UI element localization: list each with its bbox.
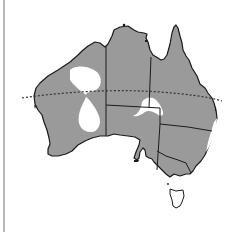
island-king bbox=[167, 183, 169, 185]
australia-map bbox=[0, 0, 239, 232]
island-groote-eylandt bbox=[145, 40, 147, 42]
tasmania bbox=[170, 189, 184, 208]
island-fraser bbox=[215, 107, 216, 111]
island-kangaroo bbox=[134, 160, 139, 162]
mainland-australia bbox=[34, 25, 217, 177]
island-melville bbox=[123, 24, 126, 27]
